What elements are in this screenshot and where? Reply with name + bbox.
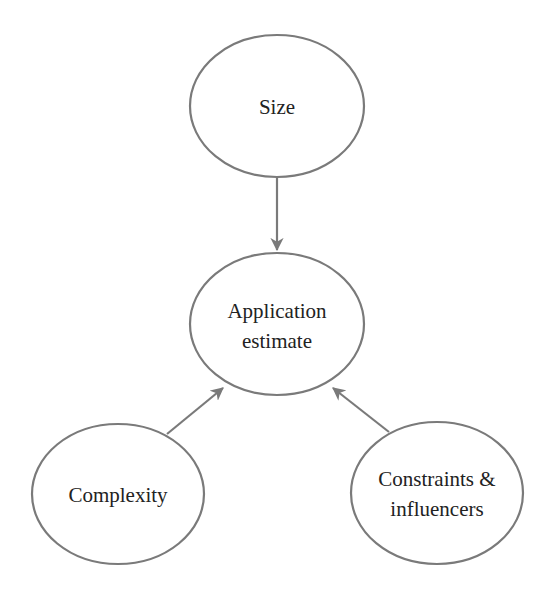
node-application-estimate-label-line2: estimate <box>242 329 312 353</box>
node-complexity: Complexity <box>32 424 204 564</box>
node-size: Size <box>190 35 364 177</box>
node-complexity-label: Complexity <box>68 483 168 507</box>
edge-complexity-to-estimate <box>167 388 223 434</box>
node-application-estimate-ellipse <box>190 253 364 395</box>
node-application-estimate: Application estimate <box>190 253 364 395</box>
node-constraints-influencers: Constraints & influencers <box>351 422 523 564</box>
node-constraints-influencers-ellipse <box>351 422 523 564</box>
edge-constraints-to-estimate <box>333 388 389 432</box>
node-size-label: Size <box>259 95 295 119</box>
node-constraints-influencers-label-line1: Constraints & <box>378 467 495 491</box>
diagram-canvas: Size Application estimate Complexity Con… <box>0 0 548 591</box>
node-application-estimate-label-line1: Application <box>227 299 327 323</box>
node-constraints-influencers-label-line2: influencers <box>390 497 483 521</box>
